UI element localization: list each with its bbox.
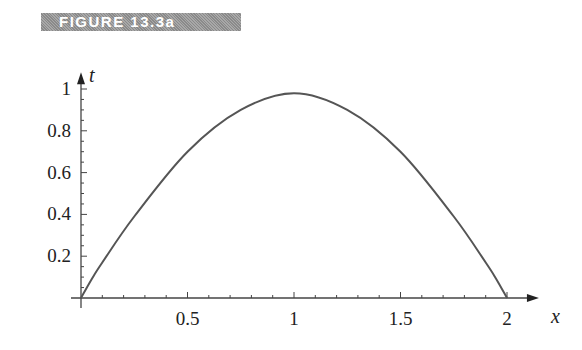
y-tick-label: 0.6 xyxy=(47,162,71,183)
y-axis-label: t xyxy=(89,64,95,86)
chart: 0.511.520.20.40.60.81xt xyxy=(0,0,582,350)
axes: 0.511.520.20.40.60.81xt xyxy=(47,64,560,329)
y-tick-label: 0.4 xyxy=(47,203,71,224)
x-axis-arrow-icon xyxy=(527,294,539,302)
x-tick-label: 2 xyxy=(502,308,512,329)
y-tick-label: 0.2 xyxy=(47,245,71,266)
x-tick-label: 1 xyxy=(289,308,299,329)
x-axis-label: x xyxy=(550,305,560,327)
y-tick-label: 0.8 xyxy=(47,120,71,141)
data-curve xyxy=(81,93,507,298)
y-axis-arrow-icon xyxy=(77,72,85,84)
x-tick-label: 1.5 xyxy=(389,308,413,329)
x-tick-label: 0.5 xyxy=(176,308,200,329)
y-tick-label: 1 xyxy=(62,78,72,99)
